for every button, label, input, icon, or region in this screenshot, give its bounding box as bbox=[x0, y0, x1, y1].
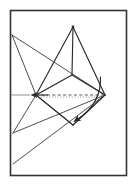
tetrahedra-rotation-diagram bbox=[0, 0, 135, 186]
apex-vertex-dot bbox=[72, 26, 75, 29]
figure-container bbox=[0, 0, 135, 186]
